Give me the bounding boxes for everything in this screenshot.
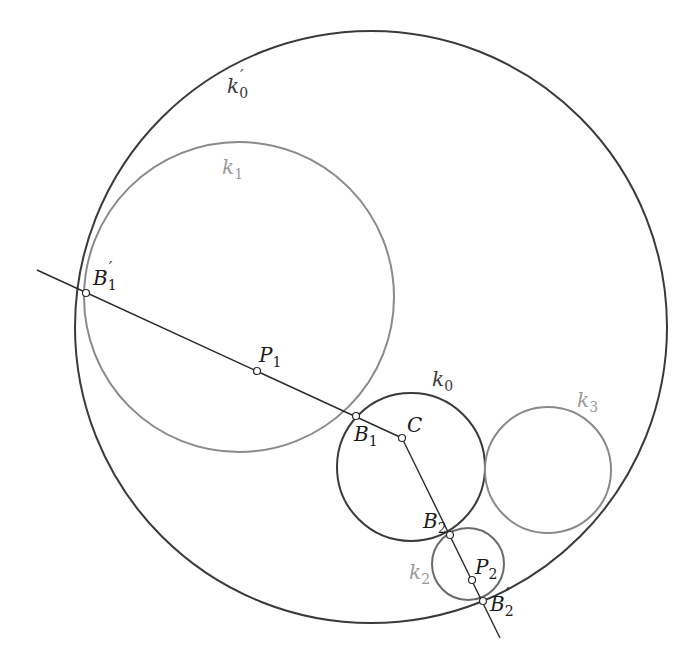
label-k1: k1 xyxy=(222,155,243,182)
label-k3: k3 xyxy=(577,388,598,415)
circle-k3 xyxy=(485,407,611,533)
label-k0-prime: k0′ xyxy=(227,66,248,101)
circle-k0-prime xyxy=(75,31,667,623)
point-B1 xyxy=(353,413,360,420)
line-through-B1prime-C xyxy=(37,270,402,438)
label-P2: P2 xyxy=(474,555,497,582)
point-B1-prime xyxy=(83,290,90,297)
circle-k1 xyxy=(84,142,394,452)
circle-k2 xyxy=(432,528,504,600)
label-B2: B2 xyxy=(422,509,447,536)
point-B2 xyxy=(447,532,454,539)
point-C xyxy=(399,435,406,442)
point-P1 xyxy=(254,368,261,375)
point-B2-prime xyxy=(480,598,487,605)
diagram-canvas: k0′ k1 k0 k3 k2 B1′ P1 B1 C B2 P2 B2′ xyxy=(0,0,688,668)
label-P1: P1 xyxy=(258,343,281,370)
label-B1: B1 xyxy=(353,422,378,449)
label-B1-prime: B1′ xyxy=(92,258,117,293)
label-k0: k0 xyxy=(432,367,453,394)
label-k2: k2 xyxy=(409,560,430,587)
label-C: C xyxy=(407,413,422,437)
